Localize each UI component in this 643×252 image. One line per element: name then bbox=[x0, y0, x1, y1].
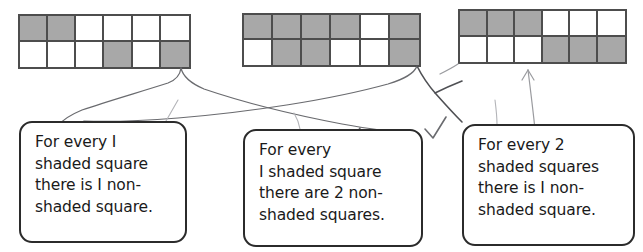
connector-grid2-to-box3-branch bbox=[435, 81, 462, 93]
shaded-square bbox=[570, 37, 598, 63]
non-shaded-square bbox=[20, 42, 48, 68]
shaded-square-grid-3 bbox=[458, 9, 627, 64]
shaded-square bbox=[273, 15, 302, 40]
shaded-square bbox=[302, 15, 331, 40]
shaded-square bbox=[302, 40, 331, 65]
non-shaded-square bbox=[76, 16, 104, 42]
connector-box3-leader bbox=[495, 100, 497, 124]
non-shaded-square bbox=[331, 40, 360, 65]
connector-grid2-to-box1 bbox=[84, 66, 417, 121]
shaded-square-grid-2 bbox=[242, 13, 421, 67]
connector-grid1-to-box2 bbox=[58, 68, 181, 126]
connector-grid3-left-stub bbox=[440, 64, 458, 74]
shaded-square bbox=[460, 11, 488, 37]
statement-line: there is I non- bbox=[478, 178, 621, 200]
non-shaded-square bbox=[133, 16, 161, 42]
shaded-square bbox=[488, 11, 516, 37]
worksheet-canvas: For every I shaded square there is I non… bbox=[0, 0, 643, 252]
statement-line: there is I non- bbox=[35, 175, 173, 197]
non-shaded-square bbox=[598, 11, 626, 37]
non-shaded-square bbox=[48, 42, 76, 68]
statement-line: shaded squares bbox=[478, 157, 621, 179]
non-shaded-square bbox=[570, 11, 598, 37]
connector-grid2-to-box3 bbox=[417, 66, 462, 122]
statement-box-1[interactable]: For every I shaded square there is I non… bbox=[19, 121, 187, 243]
shaded-square bbox=[598, 37, 626, 63]
connector-box1-leader bbox=[166, 100, 178, 121]
shaded-square bbox=[161, 42, 189, 68]
shaded-square bbox=[390, 40, 419, 65]
non-shaded-square bbox=[244, 40, 273, 65]
statement-line: shaded squares. bbox=[259, 205, 409, 227]
shaded-square bbox=[543, 37, 571, 63]
non-shaded-square bbox=[133, 42, 161, 68]
shaded-square bbox=[273, 40, 302, 65]
non-shaded-square bbox=[543, 11, 571, 37]
shaded-square bbox=[515, 11, 543, 37]
non-shaded-square bbox=[361, 40, 390, 65]
shaded-square-grid-1 bbox=[18, 14, 191, 69]
statement-line: shaded square bbox=[35, 154, 173, 176]
non-shaded-square bbox=[488, 37, 516, 63]
statement-line: shaded square. bbox=[35, 197, 173, 219]
statement-line: For every 2 bbox=[478, 135, 621, 157]
statement-line: there are 2 non- bbox=[259, 183, 409, 205]
non-shaded-square bbox=[161, 16, 189, 42]
check-mark-icon bbox=[425, 117, 446, 138]
statement-line: I shaded square bbox=[259, 162, 409, 184]
non-shaded-square bbox=[515, 37, 543, 63]
statement-line: shaded square. bbox=[478, 200, 621, 222]
connector-grid3-arrow-head-left bbox=[522, 70, 528, 80]
shaded-square bbox=[20, 16, 48, 42]
non-shaded-square bbox=[361, 15, 390, 40]
shaded-square bbox=[48, 16, 76, 42]
statement-box-2[interactable]: For every I shaded square there are 2 no… bbox=[243, 129, 423, 247]
shaded-square bbox=[244, 15, 273, 40]
shaded-square bbox=[390, 15, 419, 40]
shaded-square bbox=[104, 42, 132, 68]
statement-line: For every bbox=[259, 140, 409, 162]
non-shaded-square bbox=[76, 42, 104, 68]
statement-line: For every I bbox=[35, 132, 173, 154]
shaded-square bbox=[331, 15, 360, 40]
connector-box2-leader bbox=[294, 113, 300, 129]
connector-grid1-to-box2-tail bbox=[181, 68, 410, 133]
non-shaded-square bbox=[460, 37, 488, 63]
connector-grid3-arrow-head-right bbox=[528, 70, 534, 80]
non-shaded-square bbox=[104, 16, 132, 42]
statement-box-3[interactable]: For every 2 shaded squares there is I no… bbox=[462, 124, 635, 246]
